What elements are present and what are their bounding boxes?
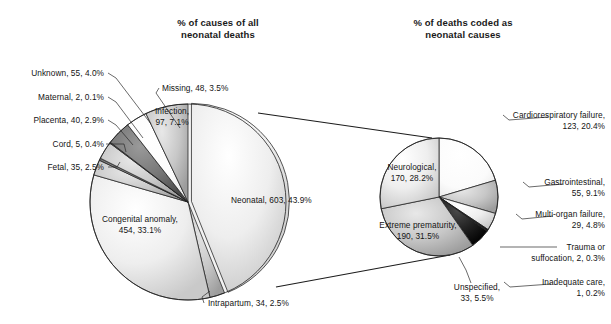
label-extreme-prematurity: Extreme prematurity, xyxy=(379,220,456,230)
label-neurological: Neurological, xyxy=(387,162,436,172)
label-infection-value: 97, 7.1% xyxy=(155,117,189,127)
label-gastrointestinal-value: 55, 9.1% xyxy=(572,188,606,198)
label-multi-organ-value: 29, 4.8% xyxy=(572,220,606,230)
label-fetal: Fetal, 35, 2.5% xyxy=(47,162,104,172)
chart-canvas: % of causes of all neonatal deaths % of … xyxy=(0,0,611,324)
label-gastrointestinal: Gastrointestinal, xyxy=(544,177,605,187)
label-congenital: Congenital anomaly, xyxy=(102,214,178,224)
label-intrapartum: Intrapartum, 34, 2.5% xyxy=(208,298,289,308)
label-unknown: Unknown, 55, 4.0% xyxy=(31,68,104,78)
label-unspecified: Unspecified, xyxy=(454,282,500,292)
label-placenta: Placenta, 40, 2.9% xyxy=(33,115,104,125)
label-cardiorespiratory: Cardiorespiratory failure, xyxy=(513,110,605,120)
label-cardiorespiratory-value: 123, 20.4% xyxy=(563,121,606,131)
label-extreme-prematurity-value: 190, 31.5% xyxy=(397,231,440,241)
left-chart-title-line2: neonatal deaths xyxy=(181,29,255,40)
label-trauma-value: suffocation, 2, 0.3% xyxy=(531,253,605,263)
label-infection: Infection, xyxy=(155,106,189,116)
label-neurological-value: 170, 28.2% xyxy=(391,173,434,183)
right-chart-title-line2: neonatal causes xyxy=(425,29,500,40)
explosion-connector-line-0 xyxy=(258,113,432,138)
explosion-connector-line-1 xyxy=(276,255,450,287)
pie-chart-figure: % of causes of all neonatal deaths % of … xyxy=(0,0,611,324)
label-trauma: Trauma or xyxy=(567,242,606,252)
label-maternal: Maternal, 2, 0.1% xyxy=(38,92,104,102)
label-neonatal: Neonatal, 603, 43.9% xyxy=(231,195,312,205)
label-cord: Cord, 5, 0.4% xyxy=(53,139,105,149)
leader-unspecified xyxy=(459,257,471,283)
label-inadequate-care: Inadequate care, xyxy=(542,277,605,287)
left-chart-title-line1: % of causes of all xyxy=(177,17,259,28)
label-unspecified-value: 33, 5.5% xyxy=(460,293,494,303)
right-chart-title-line1: % of deaths coded as xyxy=(413,17,512,28)
label-inadequate-care-value: 1, 0.2% xyxy=(577,288,606,298)
label-missing: Missing, 48, 3.5% xyxy=(162,83,229,93)
label-multi-organ: Multi-organ failure, xyxy=(535,209,605,219)
label-congenital-value: 454, 33.1% xyxy=(119,225,162,235)
